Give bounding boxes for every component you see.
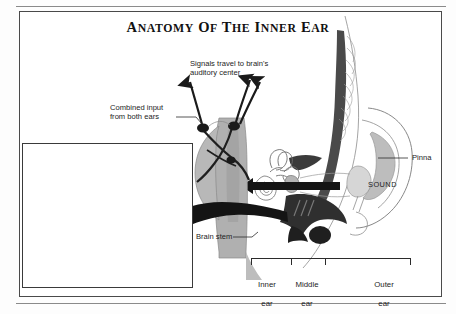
bracket-bar [251,258,411,259]
region-label-middle-ear: Middle ear [288,270,326,308]
region-outer-line1: Outer [374,280,394,289]
region-inner-line2: ear [261,299,272,308]
region-inner-line1: Inner [258,280,276,289]
inner-ear-inset-panel [22,143,193,288]
bracket-tick-1 [251,258,252,265]
region-middle-line1: Middle [296,280,319,289]
ear-regions-bracket [251,258,411,266]
region-outer-line2: ear [378,299,389,308]
bracket-tick-3 [325,258,326,265]
region-label-outer-ear: Outer ear [366,270,402,308]
callout-combined-input: Combined input from both ears [110,103,163,121]
bracket-tick-4 [410,258,411,265]
diagram-page: ANATOMY OF THE INNER EAR [0,0,456,314]
callout-sound: SOUND [368,180,397,189]
callout-brain-stem: Brain stem [196,232,232,241]
callout-pinna: Pinna [412,153,431,162]
callout-signals-to-brain: Signals travel to brain's auditory cente… [190,59,268,77]
bracket-tick-2 [291,258,292,265]
region-label-inner-ear: Inner ear [250,270,284,308]
region-middle-line2: ear [301,299,312,308]
